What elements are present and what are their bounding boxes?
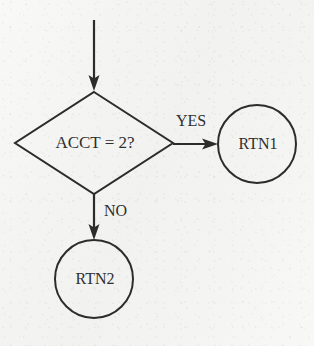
node-rtn1: RTN1 [218,105,296,183]
edge-no-branch: NO [89,194,128,240]
edge-yes-branch: YES [173,112,218,150]
rtn2-label: RTN2 [75,270,114,287]
edge-yes-label: YES [176,112,206,129]
edge-no-label: NO [104,202,127,219]
rtn1-label: RTN1 [238,135,277,152]
flowchart-diagram: ACCT = 2? YES RTN1 NO RTN2 [0,0,314,346]
flowchart-canvas: ACCT = 2? YES RTN1 NO RTN2 [0,0,314,346]
node-rtn2: RTN2 [55,240,133,318]
node-decision: ACCT = 2? [15,92,173,194]
edge-entry-arrow [89,20,100,91]
decision-label: ACCT = 2? [55,133,134,152]
